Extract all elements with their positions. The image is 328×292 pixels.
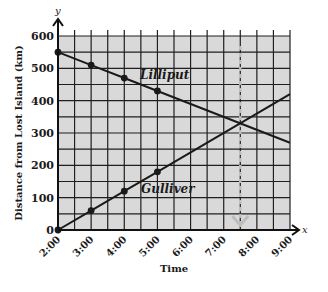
y-tick-label: 300 [31, 127, 54, 140]
line-chart: 0100200300400500600 2:003:004:005:006:00… [0, 0, 328, 292]
x-tick-label: 4:00 [104, 234, 129, 259]
y-tick-label: 200 [31, 159, 54, 172]
data-point [88, 207, 95, 214]
data-point [154, 168, 161, 175]
x-tick-labels: 2:003:004:005:006:007:008:009:00 [37, 234, 294, 259]
y-tick-labels: 0100200300400500600 [31, 30, 54, 237]
x-axis-title: Time [160, 263, 188, 274]
x-tick-label: 8:00 [236, 234, 261, 259]
y-axis-letter: y [54, 5, 61, 16]
data-point [121, 188, 128, 195]
y-tick-label: 500 [31, 62, 54, 75]
data-point [154, 88, 161, 95]
x-tick-label: 9:00 [269, 234, 294, 259]
series-label-lilliput: Lilliput [139, 68, 190, 82]
y-axis-title: Distance from Lost Island (km) [13, 45, 24, 220]
x-tick-label: 6:00 [170, 234, 195, 259]
y-tick-label: 100 [31, 192, 54, 205]
y-tick-label: 600 [31, 30, 54, 43]
data-point [121, 75, 128, 82]
x-tick-label: 5:00 [137, 234, 162, 259]
x-tick-label: 7:00 [203, 234, 228, 259]
y-tick-label: 400 [31, 95, 54, 108]
x-axis-letter: x [302, 224, 308, 235]
x-tick-label: 2:00 [37, 234, 62, 259]
x-tick-label: 3:00 [70, 234, 95, 259]
data-point [88, 62, 95, 69]
series-label-gulliver: Gulliver [141, 182, 196, 196]
